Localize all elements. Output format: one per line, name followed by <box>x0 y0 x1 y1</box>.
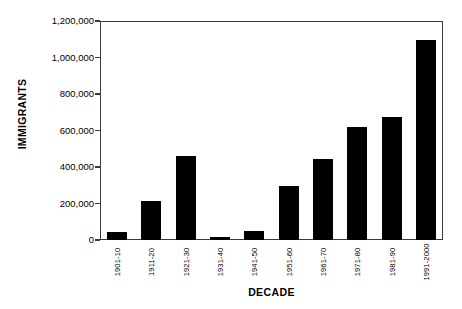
y-axis-tick-label: 1,000,000 <box>26 53 94 63</box>
bar <box>141 201 161 240</box>
bar <box>279 186 299 240</box>
y-axis-tick-label: 400,000 <box>26 162 94 172</box>
bar <box>382 117 402 240</box>
x-axis-tick-label: 1941-50 <box>250 248 259 277</box>
y-axis-tick-label: 200,000 <box>26 199 94 209</box>
bar-slot <box>306 21 340 240</box>
x-axis-tick-label: 1901-10 <box>113 248 122 277</box>
y-axis-tick-label: 1,200,000 <box>26 16 94 26</box>
y-axis-tick-mark <box>95 239 100 240</box>
bar-slot <box>100 21 134 240</box>
y-axis-tick-mark <box>95 130 100 131</box>
bar <box>416 40 436 240</box>
bar <box>244 231 264 240</box>
bar <box>107 232 127 240</box>
bar <box>347 127 367 240</box>
bar-slot <box>409 21 443 240</box>
x-axis-tick-label-slot: 1961-70 <box>306 240 340 286</box>
bar-slot <box>237 21 271 240</box>
x-axis-tick-label-slot: 1901-10 <box>100 240 134 286</box>
x-axis-title: DECADE <box>100 286 443 298</box>
y-axis-tick-mark <box>95 93 100 94</box>
y-axis-tick-mark <box>95 203 100 204</box>
x-axis-tick-label-slot: 1941-50 <box>237 240 271 286</box>
y-axis-tick-label: 600,000 <box>26 126 94 136</box>
x-axis-tick-label-slot: 1921-30 <box>169 240 203 286</box>
y-axis-tick-mark <box>95 20 100 21</box>
x-axis-tick-label-slot: 1991-2000 <box>409 240 443 286</box>
bar-slot <box>374 21 408 240</box>
x-axis-tick-label-slot: 1951-60 <box>272 240 306 286</box>
y-axis-tick-labels: 0200,000400,000600,000800,0001,000,0001,… <box>26 0 94 309</box>
x-axis-tick-label: 1911-20 <box>147 248 156 276</box>
y-axis-tick-label: 800,000 <box>26 89 94 99</box>
x-axis-tick-label-slot: 1981-90 <box>374 240 408 286</box>
x-axis-tick-label-slot: 1971-80 <box>340 240 374 286</box>
bar <box>313 159 333 240</box>
x-axis-tick-label: 1931-40 <box>216 248 225 277</box>
y-axis-tick-mark <box>95 166 100 167</box>
x-axis-tick-label-slot: 1911-20 <box>134 240 168 286</box>
bar-slot <box>203 21 237 240</box>
x-axis-tick-label-slot: 1931-40 <box>203 240 237 286</box>
x-axis-tick-labels: 1901-101911-201921-301931-401941-501951-… <box>100 240 443 286</box>
bars-layer <box>100 21 443 240</box>
y-axis-tick-mark <box>95 57 100 58</box>
bar-slot <box>340 21 374 240</box>
bar-slot <box>169 21 203 240</box>
x-axis-tick-label: 1921-30 <box>181 248 190 277</box>
x-axis-tick-label: 1961-70 <box>318 248 327 277</box>
immigrants-by-decade-bar-chart: IMMIGRANTS 0200,000400,000600,000800,000… <box>0 0 462 309</box>
bar <box>176 156 196 240</box>
bar-slot <box>272 21 306 240</box>
x-axis-tick-label: 1991-2000 <box>421 243 430 280</box>
x-axis-tick-label: 1981-90 <box>387 248 396 277</box>
x-axis-tick-label: 1951-60 <box>284 248 293 277</box>
y-axis-tick-label: 0 <box>26 235 94 245</box>
bar-slot <box>134 21 168 240</box>
x-axis-tick-label: 1971-80 <box>353 248 362 277</box>
